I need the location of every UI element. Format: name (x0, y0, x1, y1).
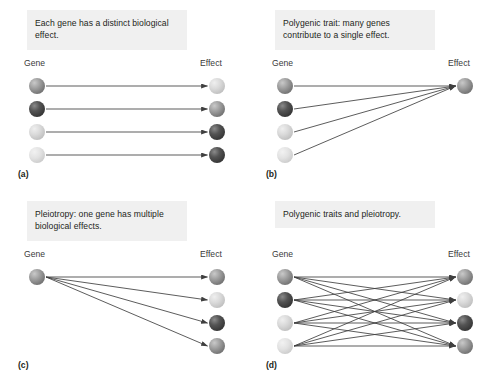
panel-a: Each gene has a distinct biological effe… (0, 0, 247, 191)
effect-node-c-1 (209, 292, 225, 308)
panel-b: Polygenic trait: many genes contribute t… (248, 0, 495, 191)
panel-d-label: (d) (266, 360, 277, 370)
gene-node-d-3 (277, 338, 293, 354)
edge-gene0-effect1 (46, 277, 208, 300)
effect-node-d-2 (457, 315, 473, 331)
edge-gene3-effect0 (294, 86, 456, 155)
panel-c-edges (0, 191, 247, 382)
effect-node-c-2 (209, 315, 225, 331)
gene-node-d-0 (277, 269, 293, 285)
edge-gene0-effect2 (46, 277, 208, 323)
effect-node-b-0 (457, 78, 473, 94)
gene-node-d-2 (277, 315, 293, 331)
gene-effect-figure: Each gene has a distinct biological effe… (0, 0, 495, 382)
effect-node-a-3 (209, 147, 225, 163)
panel-b-label: (b) (266, 169, 277, 179)
effect-node-a-2 (209, 124, 225, 140)
effect-node-c-3 (209, 338, 225, 354)
effect-node-d-3 (457, 338, 473, 354)
gene-node-b-1 (277, 101, 293, 117)
effect-node-c-0 (209, 269, 225, 285)
panel-c: Pleiotropy: one gene has multiple biolog… (0, 191, 247, 382)
edge-gene1-effect0 (294, 86, 456, 109)
gene-node-a-3 (29, 147, 45, 163)
gene-node-d-1 (277, 292, 293, 308)
gene-node-a-2 (29, 124, 45, 140)
gene-node-b-0 (277, 78, 293, 94)
gene-node-c-0 (29, 269, 45, 285)
effect-node-d-1 (457, 292, 473, 308)
panel-d: Polygenic traits and pleiotropy. Gene Ef… (248, 191, 495, 382)
gene-node-a-0 (29, 78, 45, 94)
effect-node-d-0 (457, 269, 473, 285)
effect-node-a-1 (209, 101, 225, 117)
panel-c-label: (c) (18, 360, 29, 370)
edge-gene2-effect0 (294, 86, 456, 132)
gene-node-b-2 (277, 124, 293, 140)
edge-gene0-effect3 (46, 277, 208, 346)
effect-node-a-0 (209, 78, 225, 94)
panel-a-label: (a) (18, 169, 29, 179)
gene-node-b-3 (277, 147, 293, 163)
gene-node-a-1 (29, 101, 45, 117)
